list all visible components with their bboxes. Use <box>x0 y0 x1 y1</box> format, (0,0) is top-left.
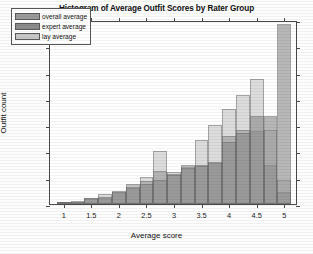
histogram-bar <box>250 116 264 204</box>
x-tick-label: 1.5 <box>76 211 106 220</box>
y-tick-right <box>296 22 300 23</box>
legend-label: overall average <box>42 13 87 20</box>
x-tick <box>257 204 258 208</box>
legend: overall averageexpert averagelay average <box>11 8 91 45</box>
histogram-bar <box>208 162 222 204</box>
x-tick-label: 3.5 <box>187 211 217 220</box>
legend-item: lay average <box>15 32 87 41</box>
x-tick-label: 2.5 <box>131 211 161 220</box>
x-tick-top <box>229 18 230 22</box>
legend-label: expert average <box>42 23 86 30</box>
plot-area: 05010015020025030035011.522.533.544.55 <box>49 21 297 205</box>
x-tick-label: 4.5 <box>242 211 272 220</box>
y-tick <box>46 75 50 76</box>
x-tick-top <box>257 18 258 22</box>
bars-layer <box>50 22 296 204</box>
legend-item: expert average <box>15 22 87 31</box>
x-tick-label: 5 <box>269 211 299 220</box>
x-tick-top <box>284 18 285 22</box>
x-tick <box>202 204 203 208</box>
y-tick <box>46 127 50 128</box>
x-tick-top <box>146 18 147 22</box>
histogram-bar <box>277 24 291 204</box>
y-tick <box>46 180 50 181</box>
x-tick <box>229 204 230 208</box>
y-tick-right <box>296 127 300 128</box>
legend-label: lay average <box>42 33 76 40</box>
histogram-bar <box>181 168 195 204</box>
x-tick <box>64 204 65 208</box>
y-tick <box>46 101 50 102</box>
y-tick <box>46 206 50 207</box>
y-tick <box>46 48 50 49</box>
x-tick-top <box>202 18 203 22</box>
histogram-bar <box>264 116 278 204</box>
legend-swatch <box>15 33 40 40</box>
y-tick <box>46 153 50 154</box>
histogram-bar <box>195 166 209 204</box>
y-tick-right <box>296 206 300 207</box>
x-tick-label: 2 <box>104 211 134 220</box>
y-tick-right <box>296 101 300 102</box>
x-tick-top <box>174 18 175 22</box>
x-tick-label: 1 <box>49 211 79 220</box>
y-tick-right <box>296 153 300 154</box>
histogram-bar <box>98 197 112 204</box>
histogram-bar <box>126 188 140 204</box>
x-axis-title: Average score <box>0 231 313 240</box>
legend-swatch <box>15 23 40 30</box>
histogram-bar <box>236 133 250 204</box>
x-tick-top <box>91 18 92 22</box>
histogram-bar <box>222 142 236 204</box>
histogram-bar <box>153 180 167 204</box>
x-tick <box>91 204 92 208</box>
x-tick <box>174 204 175 208</box>
y-tick-right <box>296 180 300 181</box>
histogram-bar <box>167 175 181 204</box>
x-tick <box>146 204 147 208</box>
x-tick-top <box>119 18 120 22</box>
chart-figure: Histogram of Average Outfit Scores by Ra… <box>0 0 313 254</box>
y-tick-right <box>296 48 300 49</box>
y-axis-title: Outfit count <box>0 93 8 134</box>
legend-item: overall average <box>15 12 87 21</box>
histogram-bar <box>71 201 85 204</box>
legend-swatch <box>15 13 40 20</box>
histogram-bar <box>140 184 154 204</box>
x-tick-label: 3 <box>159 211 189 220</box>
x-tick-label: 4 <box>214 211 244 220</box>
histogram-bar <box>112 191 126 204</box>
y-tick-right <box>296 75 300 76</box>
x-tick <box>284 204 285 208</box>
x-tick <box>119 204 120 208</box>
